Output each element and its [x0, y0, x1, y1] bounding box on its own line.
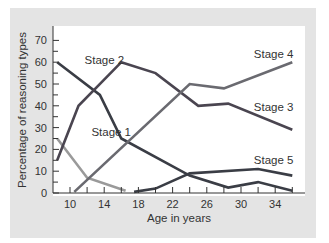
y-tick-label: 50: [35, 78, 47, 90]
x-tick-label: 34: [269, 198, 281, 210]
y-tick-label: 40: [35, 100, 47, 112]
y-tick-label: 0: [41, 187, 47, 199]
y-tick-label: 30: [35, 122, 47, 134]
series-label-stage-1: Stage 1: [91, 126, 131, 138]
y-axis-title: Percentage of reasoning types: [16, 32, 28, 188]
x-axis-title: Age in years: [147, 212, 211, 224]
x-tick-label: 18: [132, 198, 144, 210]
y-tick-label: 60: [35, 56, 47, 68]
series-label-stage-4: Stage 4: [254, 48, 294, 60]
line-chart: 01020304050607010141822263034 Stage 1Sta…: [0, 0, 329, 243]
x-tick-label: 26: [201, 198, 213, 210]
y-tick-label: 20: [35, 143, 47, 155]
y-tick-label: 10: [35, 165, 47, 177]
series-label-stage-2: Stage 2: [85, 54, 125, 66]
x-tick-label: 10: [64, 198, 76, 210]
series-label-stage-3: Stage 3: [254, 101, 294, 113]
y-tick-label: 70: [35, 34, 47, 46]
x-tick-label: 14: [98, 198, 110, 210]
x-tick-label: 30: [235, 198, 247, 210]
x-tick-label: 22: [166, 198, 178, 210]
series-label-stage-5: Stage 5: [254, 154, 294, 166]
